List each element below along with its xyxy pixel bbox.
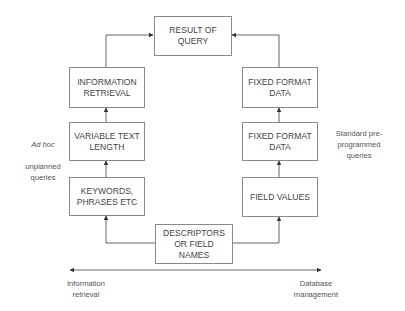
information-retrieval-axis-label: Information retrieval <box>58 278 114 300</box>
standard-queries-label: Standard pre- programmed queries <box>326 128 392 161</box>
unplanned-queries-text: unplanned queries <box>25 162 60 182</box>
descriptors-field-names-node: DESCRIPTORS OR FIELD NAMES <box>155 224 233 264</box>
fixed-format-data-mid-node: FIXED FORMAT DATA <box>242 122 318 161</box>
database-management-axis-label: Database management <box>284 278 348 300</box>
ad-hoc-text: Ad hoc <box>31 140 55 149</box>
information-retrieval-node: INFORMATION RETRIEVAL <box>69 67 145 108</box>
field-values-node: FIELD VALUES <box>242 177 318 217</box>
keywords-phrases-node: KEYWORDS, PHRASES ETC <box>69 177 145 216</box>
ad-hoc-queries-label: Ad hoc unplanned queries <box>20 128 66 183</box>
fixed-format-data-top-node: FIXED FORMAT DATA <box>242 67 318 108</box>
variable-text-length-node: VARIABLE TEXT LENGTH <box>69 122 145 161</box>
result-of-query-node: RESULT OF QUERY <box>154 16 232 56</box>
